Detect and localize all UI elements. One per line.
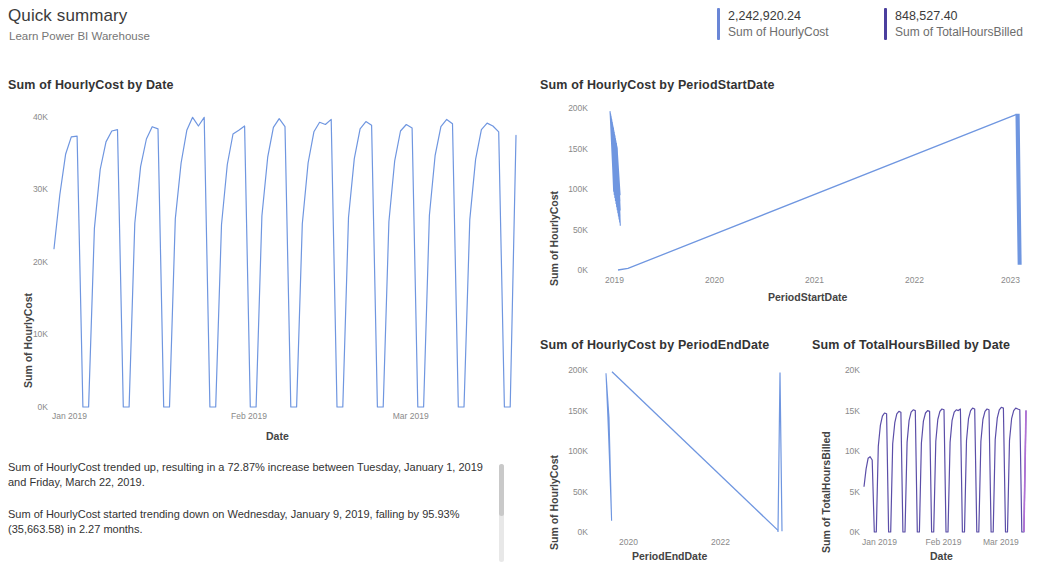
- chart-title: Sum of HourlyCost by PeriodStartDate: [540, 78, 775, 92]
- y-tick-label: 0K: [544, 527, 588, 537]
- x-tick-label: Feb 2019: [926, 537, 962, 547]
- y-tick-label: 30K: [8, 184, 48, 194]
- chart-hourlycost-by-periodenddate[interactable]: Sum of HourlyCost by PeriodEndDate Sum o…: [540, 338, 810, 566]
- kpi-card-totalhoursbilled[interactable]: 848,527.40 Sum of TotalHoursBilled: [884, 8, 1023, 40]
- chart-title: Sum of HourlyCost by PeriodEndDate: [540, 338, 769, 352]
- x-tick-label: 2022: [905, 275, 924, 285]
- x-tick-label: 2023: [1001, 275, 1020, 285]
- y-tick-label: 150K: [544, 406, 588, 416]
- narrative-scrollbar[interactable]: [499, 464, 504, 562]
- x-axis-title: PeriodEndDate: [632, 550, 707, 562]
- x-tick-label: Jan 2019: [862, 537, 897, 547]
- x-axis-title: PeriodStartDate: [768, 291, 847, 303]
- y-tick-label: 10K: [8, 329, 48, 339]
- y-tick-label: 20K: [8, 257, 48, 267]
- y-tick-label: 150K: [544, 144, 588, 154]
- x-tick-label: Jan 2019: [52, 411, 87, 421]
- y-tick-label: 15K: [818, 406, 860, 416]
- plot-area: [54, 102, 516, 407]
- y-tick-label: 0K: [8, 402, 48, 412]
- quick-summary-page: Quick summary Learn Power BI Warehouse 2…: [0, 0, 1037, 567]
- y-tick-label: 5K: [818, 487, 860, 497]
- narrative-paragraph-1: Sum of HourlyCost trended up, resulting …: [8, 460, 490, 490]
- chart-title: Sum of TotalHoursBilled by Date: [812, 338, 1010, 352]
- plot-area: [864, 362, 1034, 532]
- chart-totalhoursbilled-by-date[interactable]: Sum of TotalHoursBilled by Date Sum of T…: [812, 338, 1037, 566]
- plot-area: [592, 100, 1035, 270]
- y-tick-label: 50K: [544, 225, 588, 235]
- x-tick-label: Feb 2019: [231, 411, 267, 421]
- page-title: Quick summary: [8, 6, 127, 26]
- y-tick-label: 200K: [544, 365, 588, 375]
- chart-hourlycost-by-periodstartdate[interactable]: Sum of HourlyCost by PeriodStartDate Sum…: [540, 78, 1037, 306]
- narrative-paragraph-2: Sum of HourlyCost started trending down …: [8, 507, 490, 537]
- x-tick-label: 2022: [711, 537, 730, 547]
- kpi-value: 848,527.40: [895, 8, 1023, 24]
- narrative-panel[interactable]: Sum of HourlyCost trended up, resulting …: [8, 460, 516, 565]
- x-tick-label: Mar 2019: [393, 411, 429, 421]
- y-tick-label: 200K: [544, 103, 588, 113]
- y-tick-label: 100K: [544, 184, 588, 194]
- kpi-label: Sum of TotalHoursBilled: [895, 24, 1023, 40]
- x-axis-title: Date: [266, 430, 289, 442]
- x-tick-label: Mar 2019: [983, 537, 1019, 547]
- x-tick-label: 2020: [705, 275, 724, 285]
- kpi-card-hourlycost[interactable]: 2,242,920.24 Sum of HourlyCost: [717, 8, 829, 40]
- x-tick-label: 2020: [619, 537, 638, 547]
- x-tick-label: 2019: [605, 275, 624, 285]
- kpi-accent-bar: [717, 8, 720, 40]
- y-tick-label: 100K: [544, 446, 588, 456]
- y-axis-title: Sum of HourlyCost: [22, 293, 34, 388]
- x-axis-title: Date: [930, 550, 953, 562]
- y-tick-label: 50K: [544, 487, 588, 497]
- y-tick-label: 0K: [818, 527, 860, 537]
- page-subtitle: Learn Power BI Warehouse: [9, 30, 150, 42]
- y-tick-label: 10K: [818, 446, 860, 456]
- chart-title: Sum of HourlyCost by Date: [8, 78, 174, 92]
- y-tick-label: 40K: [8, 112, 48, 122]
- y-tick-label: 0K: [544, 265, 588, 275]
- chart-hourlycost-by-date[interactable]: Sum of HourlyCost by Date Sum of HourlyC…: [8, 78, 518, 453]
- kpi-value: 2,242,920.24: [728, 8, 829, 24]
- plot-area: [592, 362, 807, 532]
- x-tick-label: 2021: [805, 275, 824, 285]
- kpi-accent-bar: [884, 8, 887, 40]
- kpi-label: Sum of HourlyCost: [728, 24, 829, 40]
- y-tick-label: 20K: [818, 365, 860, 375]
- narrative-scrollbar-thumb[interactable]: [499, 464, 504, 516]
